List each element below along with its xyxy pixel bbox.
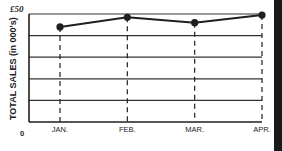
x-tick-label: FEB. — [119, 125, 136, 134]
x-tick-labels: JAN.FEB.MAR.APR. — [52, 125, 271, 134]
x-tick-label: APR. — [253, 125, 271, 134]
x-tick-label: MAR. — [185, 125, 204, 134]
data-point-mar — [191, 19, 198, 26]
x-tick-label: JAN. — [52, 125, 68, 134]
series-line — [60, 15, 262, 27]
sales-line-chart: JAN.FEB.MAR.APR. £50 0 TOTAL SALES (in 0… — [0, 0, 282, 151]
drop-lines — [60, 15, 262, 122]
data-point-apr — [258, 11, 265, 18]
scan-edge — [274, 0, 282, 151]
y-min-label: 0 — [20, 129, 24, 138]
data-point-jan — [56, 23, 63, 30]
y-axis-label: TOTAL SALES (in 000's) — [8, 17, 18, 120]
y-max-label: £50 — [9, 4, 24, 14]
data-point-feb — [124, 14, 131, 21]
